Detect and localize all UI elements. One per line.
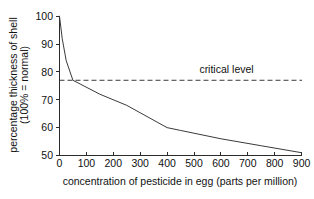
y-tick-label: 70 bbox=[41, 94, 53, 106]
x-tick-label: 600 bbox=[212, 157, 230, 169]
x-tick-label: 900 bbox=[293, 157, 311, 169]
x-tick-label: 700 bbox=[239, 157, 257, 169]
y-tick-label: 50 bbox=[41, 149, 53, 161]
x-tick-label: 800 bbox=[266, 157, 284, 169]
y-axis-label-line2: (100% = normal) bbox=[18, 46, 30, 124]
critical-level-label: critical level bbox=[199, 63, 253, 75]
y-tick-label: 60 bbox=[41, 121, 53, 133]
y-tick-label: 90 bbox=[41, 38, 53, 50]
x-tick-label: 300 bbox=[131, 157, 149, 169]
line-chart: percentage thickness of shell (100% = no… bbox=[0, 0, 314, 199]
y-tick-label: 80 bbox=[41, 66, 53, 78]
x-tick-marks bbox=[60, 152, 302, 156]
data-series-line bbox=[60, 16, 302, 153]
x-tick-label: 0 bbox=[57, 157, 63, 169]
y-tick-marks bbox=[56, 16, 60, 155]
x-tick-label: 200 bbox=[105, 157, 123, 169]
x-tick-label: 400 bbox=[158, 157, 176, 169]
x-axis-label: concentration of pesticide in egg (parts… bbox=[63, 175, 298, 187]
y-tick-labels: 50 60 70 80 90 100 bbox=[35, 10, 53, 161]
y-tick-label: 100 bbox=[35, 10, 53, 22]
chart-container: percentage thickness of shell (100% = no… bbox=[0, 0, 314, 199]
x-tick-labels: 0 100 200 300 400 500 600 700 800 900 bbox=[57, 157, 311, 169]
x-tick-label: 100 bbox=[78, 157, 96, 169]
x-tick-label: 500 bbox=[185, 157, 203, 169]
